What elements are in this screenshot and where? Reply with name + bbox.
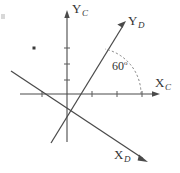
y-d-axis-line: [51, 27, 123, 144]
point-marker: [33, 47, 36, 50]
y-c-axis-label-text: Y: [72, 1, 81, 16]
y-d-axis: [51, 21, 126, 143]
x-d-axis-label: XD: [114, 148, 130, 161]
x-c-axis-label-text: X: [155, 75, 164, 90]
y-d-axis-label-subscript: D: [138, 20, 145, 30]
y-c-axis-arrowhead: [64, 10, 69, 18]
y-d-axis-label-text: Y: [128, 13, 137, 28]
angle-label: 60o: [112, 60, 128, 72]
x-c-axis-label: XC: [155, 76, 170, 89]
x-c-axis-arrowhead: [152, 91, 160, 96]
y-c-axis-label-subscript: C: [82, 8, 88, 18]
x-c-axis-label-subscript: C: [165, 82, 171, 92]
x-c-axis: [20, 91, 160, 97]
y-c-axis-label: YC: [72, 2, 87, 15]
y-d-axis-arrowhead: [117, 21, 126, 28]
degree-symbol-icon: o: [124, 59, 128, 67]
x-d-axis-line: [11, 71, 143, 159]
coordinate-axes-figure: YC YD XC XD 60o: [0, 0, 180, 173]
x-d-axis-label-text: X: [114, 147, 123, 162]
axes-svg: [0, 0, 180, 173]
y-d-axis-label: YD: [128, 14, 144, 27]
y-c-axis: [64, 10, 70, 142]
x-d-axis-label-subscript: D: [124, 154, 131, 164]
x-d-axis-arrowhead: [138, 155, 148, 163]
angle-label-value: 60: [112, 59, 124, 73]
